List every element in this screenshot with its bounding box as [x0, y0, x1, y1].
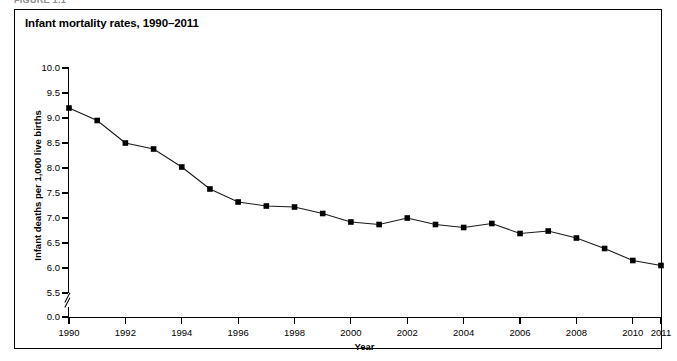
series-line: [69, 108, 661, 266]
data-point-marker: [94, 118, 100, 124]
data-point-marker: [574, 235, 580, 241]
data-point-marker: [489, 221, 495, 227]
plot-area: 10.09.59.08.58.07.57.06.56.05.50.0 19901…: [0, 0, 677, 361]
data-point-marker: [207, 186, 213, 192]
data-point-marker: [376, 222, 382, 228]
data-point-marker: [404, 215, 410, 221]
data-point-marker: [658, 263, 664, 269]
series-markers: [66, 105, 664, 268]
data-point-marker: [517, 231, 523, 237]
data-point-marker: [602, 246, 608, 252]
data-point-marker: [630, 258, 636, 264]
data-point-marker: [545, 228, 551, 234]
data-point-marker: [123, 140, 129, 146]
data-point-marker: [151, 146, 157, 152]
figure-page: FIGURE 1.1 Infant mortality rates, 1990–…: [0, 0, 677, 361]
data-point-marker: [348, 219, 354, 225]
data-point-marker: [179, 164, 185, 170]
data-point-marker: [66, 105, 72, 111]
data-point-marker: [292, 204, 298, 210]
data-point-marker: [320, 211, 326, 217]
data-point-marker: [235, 199, 241, 205]
data-point-marker: [264, 203, 270, 209]
data-point-marker: [433, 222, 439, 228]
data-point-marker: [461, 225, 467, 231]
data-series-svg: [0, 0, 677, 361]
